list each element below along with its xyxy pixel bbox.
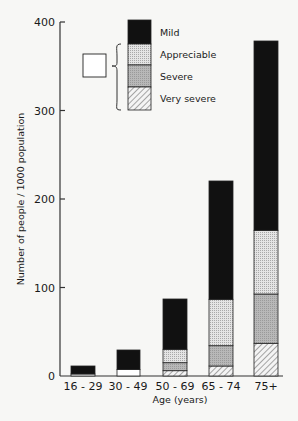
- legend-label-very-severe: Very severe: [160, 93, 216, 104]
- x-axis-title: Age (years): [153, 394, 208, 405]
- legend-swatch-appreciable: [128, 44, 151, 65]
- x-tick-30-49: 30 - 49: [109, 380, 148, 393]
- x-tick-75-plus: 75+: [254, 380, 277, 393]
- y-axis: 0 100 200 300 400 Number of people / 100…: [15, 16, 65, 383]
- bar-75-plus: [254, 41, 278, 376]
- legend-swatch-mild: [128, 20, 151, 44]
- legend-label-mild: Mild: [160, 27, 180, 38]
- x-tick-16-29: 16 - 29: [64, 380, 103, 393]
- x-axis: 16 - 29 30 - 49 50 - 69 65 - 74 75+ Age …: [60, 376, 283, 405]
- bar-50-69: [163, 299, 187, 376]
- y-tick-400: 400: [34, 16, 55, 29]
- x-tick-50-69: 50 - 69: [156, 380, 195, 393]
- y-tick-100: 100: [34, 282, 55, 295]
- chart: 0 100 200 300 400 Number of people / 100…: [0, 0, 298, 421]
- bar-16-29: [71, 366, 95, 376]
- legend: Mild Appreciable Severe Very severe: [83, 20, 216, 110]
- legend-swatch-very-severe: [128, 87, 151, 110]
- y-tick-200: 200: [34, 193, 55, 206]
- legend-brace: [112, 44, 121, 110]
- bar-30-49: [117, 350, 140, 376]
- y-tick-300: 300: [34, 105, 55, 118]
- legend-label-appreciable: Appreciable: [160, 49, 216, 60]
- legend-label-severe: Severe: [160, 71, 193, 82]
- legend-swatch-unclassified: [83, 54, 106, 77]
- y-axis-title: Number of people / 1000 population: [15, 113, 26, 286]
- y-tick-0: 0: [48, 370, 55, 383]
- x-tick-65-74: 65 - 74: [202, 380, 241, 393]
- legend-swatch-severe: [128, 65, 151, 87]
- bar-65-74: [209, 181, 233, 376]
